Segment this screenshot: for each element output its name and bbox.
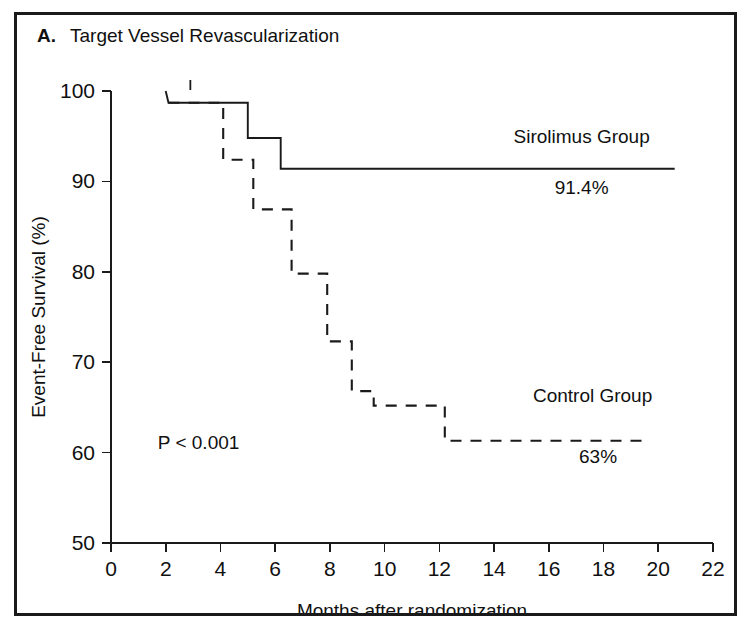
y-tick-label: 50 — [72, 531, 95, 554]
y-tick-label: 90 — [72, 169, 95, 192]
x-tick-label: 14 — [482, 557, 506, 580]
x-tick-label: 4 — [215, 557, 227, 580]
y-tick-label: 80 — [72, 260, 95, 283]
annotation-label: P < 0.001 — [158, 432, 240, 453]
kaplan-meier-chart: 5060708090100 0246810121416182022 Siroli… — [17, 15, 734, 613]
annotation-label: 91.4% — [555, 177, 609, 198]
x-tick-label: 6 — [269, 557, 281, 580]
y-tick-label: 70 — [72, 350, 95, 373]
x-tick-label: 8 — [324, 557, 336, 580]
y-axis-title: Event-Free Survival (%) — [28, 216, 49, 418]
y-tick-label: 60 — [72, 441, 95, 464]
annotation-label: 63% — [579, 446, 617, 467]
annotation-label: Sirolimus Group — [514, 126, 650, 147]
chart-annotations: Sirolimus Group91.4%Control Group63%P < … — [158, 126, 652, 468]
x-tick-label: 16 — [537, 557, 560, 580]
x-tick-label: 22 — [701, 557, 724, 580]
x-axis-ticks: 0246810121416182022 — [105, 543, 725, 580]
x-tick-label: 20 — [647, 557, 670, 580]
x-tick-label: 10 — [373, 557, 396, 580]
y-axis-ticks: 5060708090100 — [60, 79, 111, 554]
x-tick-label: 18 — [592, 557, 615, 580]
x-tick-label: 2 — [160, 557, 172, 580]
x-axis-title: Months after randomization — [297, 600, 527, 613]
y-tick-label: 100 — [60, 79, 95, 102]
figure-frame: A. Target Vessel Revascularization 50607… — [14, 12, 737, 616]
annotation-label: Control Group — [533, 385, 652, 406]
x-tick-label: 0 — [105, 557, 117, 580]
x-tick-label: 12 — [428, 557, 451, 580]
